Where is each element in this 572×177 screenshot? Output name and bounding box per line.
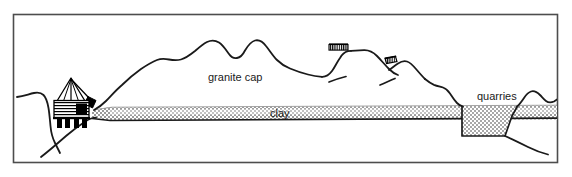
- hilltop-structure-left-body: [329, 45, 348, 51]
- works-building-pier-3: [74, 119, 79, 128]
- figure-frame: [14, 15, 558, 163]
- label-clay: clay: [270, 107, 290, 119]
- works-building-pier-2: [65, 119, 70, 128]
- works-building-pier-4: [82, 119, 87, 128]
- hilltop-structure-left: [329, 43, 348, 50]
- works-building-opening: [76, 104, 87, 115]
- label-granite-cap: granite cap: [208, 71, 262, 83]
- geological-cross-section-figure: granite cap clay quarries: [0, 0, 572, 177]
- hilltop-structure-left-roof: [329, 43, 348, 45]
- works-building-pier-1: [57, 119, 62, 128]
- works-building-sill: [53, 117, 90, 119]
- cross-section-diagram: granite cap clay quarries: [0, 0, 572, 177]
- label-quarries: quarries: [477, 90, 517, 102]
